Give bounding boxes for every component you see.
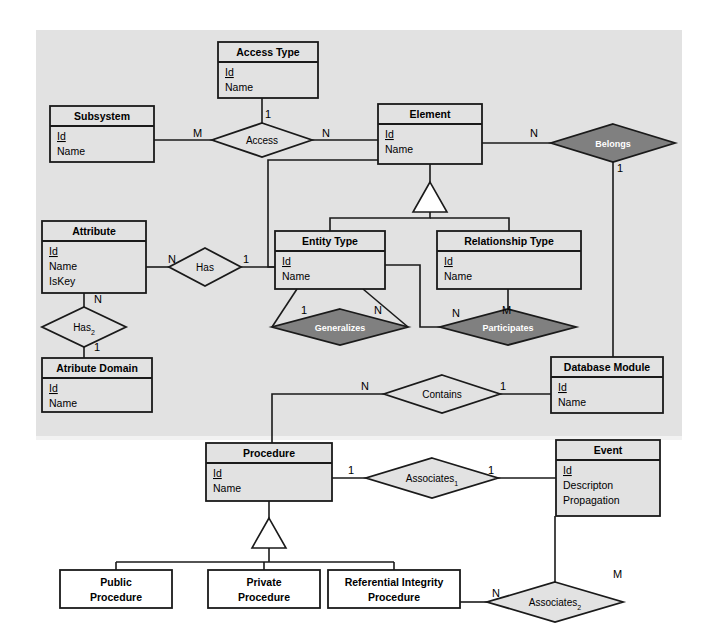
card-belongs-dbmodule: 1 (617, 162, 623, 174)
relationship-label-access: Access (246, 135, 278, 146)
entity-attribute-entity_type-1: Name (282, 270, 310, 282)
card-access-subsystem: M (193, 127, 202, 139)
relationship-label-generalizes: Generalizes (315, 323, 366, 333)
entity-title-entity_type: Entity Type (302, 235, 358, 247)
entity-attribute-subsystem-0: Id (57, 130, 66, 142)
generalization-triangle-procedure (252, 518, 286, 548)
card-has2-attribute: N (94, 293, 102, 305)
subtype-label1-referential_integrity_procedure: Referential Integrity (345, 576, 444, 588)
entity-attribute-relationship_type-1: Name (444, 270, 472, 282)
er-diagram-svg: Access TypeIdNameSubsystemIdNameElementI… (0, 0, 717, 641)
entity-title-relationship_type: Relationship Type (464, 235, 554, 247)
entity-box-relationship_type: Relationship TypeIdName (437, 231, 581, 289)
entity-box-access_type: Access TypeIdName (218, 42, 318, 98)
er-diagram-canvas: Access TypeIdNameSubsystemIdNameElementI… (0, 0, 717, 641)
entity-attribute-procedure-0: Id (213, 467, 222, 479)
entity-attribute-attribute-2: IsKey (49, 275, 76, 287)
relationship-label-has: Has (196, 262, 214, 273)
entity-title-procedure: Procedure (243, 447, 295, 459)
relationship-diamond-associates2: Associates2 (487, 582, 623, 622)
subtype-label1-private_procedure: Private (246, 576, 281, 588)
entity-attribute-element-1: Name (385, 143, 413, 155)
entity-title-access_type: Access Type (236, 46, 300, 58)
entity-box-database_module: Database ModuleIdName (551, 357, 663, 413)
entity-title-database_module: Database Module (564, 361, 651, 373)
entity-box-subsystem: SubsystemIdName (50, 106, 154, 162)
entity-attribute-database_module-0: Id (558, 381, 567, 393)
card-access-element: N (322, 127, 330, 139)
subtype-box-referential_integrity_procedure: Referential IntegrityProcedure (328, 570, 460, 608)
card-access-accesstype: 1 (265, 108, 271, 120)
entity-attribute-procedure-1: Name (213, 482, 241, 494)
entity-box-procedure: ProcedureIdName (206, 443, 332, 501)
entity-title-event: Event (594, 444, 623, 456)
entity-attribute-element-0: Id (385, 128, 394, 140)
card-generalizes-1: 1 (301, 304, 307, 316)
card-participates-m: M (502, 304, 511, 316)
entity-title-subsystem: Subsystem (74, 110, 130, 122)
card-has-attribute: N (168, 253, 176, 265)
subtype-label2-private_procedure: Procedure (238, 591, 290, 603)
relationship-label-participates: Participates (482, 323, 533, 333)
entity-attribute-relationship_type-0: Id (444, 255, 453, 267)
subtype-label2-public_procedure: Procedure (90, 591, 142, 603)
entity-attribute-subsystem-1: Name (57, 145, 85, 157)
card-assoc1-procedure: 1 (348, 464, 354, 476)
entity-box-attribute: AttributeIdNameIsKey (42, 221, 146, 293)
entity-title-element: Element (410, 108, 451, 120)
relationship-label-sub-associates2: 2 (577, 603, 581, 610)
entity-title-attribute: Attribute (72, 225, 116, 237)
entity-title-atribute_domain: Atribute Domain (56, 362, 138, 374)
entity-attribute-atribute_domain-0: Id (49, 382, 58, 394)
entity-attribute-database_module-1: Name (558, 396, 586, 408)
relationship-diamond-associates1: Associates1 (366, 458, 498, 498)
entity-attribute-event-0: Id (563, 464, 572, 476)
entity-attribute-attribute-0: Id (49, 245, 58, 257)
subtype-box-private_procedure: PrivateProcedure (208, 570, 320, 608)
entity-attribute-event-2: Propagation (563, 494, 620, 506)
entity-attribute-access_type-1: Name (225, 81, 253, 93)
entity-box-event: EventIdDescriptonPropagation (556, 440, 660, 516)
card-assoc2-event: M (613, 568, 622, 580)
entity-box-entity_type: Entity TypeIdName (275, 231, 385, 289)
card-has-entitytype: 1 (243, 253, 249, 265)
card-contains-n: N (361, 380, 369, 392)
entity-attribute-access_type-0: Id (225, 66, 234, 78)
subtype-label2-referential_integrity_procedure: Procedure (368, 591, 420, 603)
entity-box-element: ElementIdName (378, 104, 482, 164)
entity-box-atribute_domain: Atribute DomainIdName (42, 358, 152, 412)
card-contains-1: 1 (500, 380, 506, 392)
entity-attribute-atribute_domain-1: Name (49, 397, 77, 409)
card-belongs-element: N (530, 127, 538, 139)
relationship-label-contains: Contains (422, 389, 461, 400)
card-generalizes-n: N (374, 304, 382, 316)
entity-attribute-event-1: Descripton (563, 479, 613, 491)
card-participates-n: N (452, 307, 460, 319)
card-assoc1-event: 1 (488, 464, 494, 476)
relationship-label-sub-has2: 2 (91, 328, 95, 335)
subtype-label1-public_procedure: Public (100, 576, 132, 588)
entity-attribute-attribute-1: Name (49, 260, 77, 272)
entity-attribute-entity_type-0: Id (282, 255, 291, 267)
card-assoc2-refint: N (492, 587, 500, 599)
subtype-box-public_procedure: PublicProcedure (60, 570, 172, 608)
card-has2-domain: 1 (94, 341, 100, 353)
relationship-label-sub-associates1: 1 (454, 479, 458, 486)
relationship-label-belongs: Belongs (595, 139, 631, 149)
